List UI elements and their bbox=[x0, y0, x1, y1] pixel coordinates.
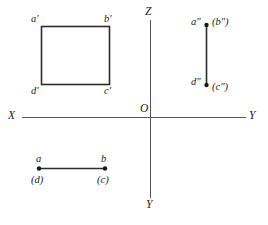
side-view-group bbox=[204, 23, 208, 87]
label-d-prime: d' bbox=[31, 86, 39, 97]
figure-canvas bbox=[0, 0, 268, 225]
projection-figure: X Y Z Y O a' b' d' c' a″ (b″) d″ (c″) a … bbox=[0, 0, 268, 225]
axis-label-y-right: Y bbox=[249, 110, 255, 122]
label-b: b bbox=[101, 154, 106, 165]
label-b-prime: b' bbox=[104, 14, 112, 25]
top-view-point-a bbox=[37, 166, 41, 170]
label-a-double-prime: a″ bbox=[191, 17, 201, 28]
axis-label-y-bottom: Y bbox=[146, 199, 152, 211]
origin-label: O bbox=[140, 103, 148, 115]
label-c-hidden: (c) bbox=[97, 175, 109, 186]
label-d-hidden: (d) bbox=[31, 175, 43, 186]
label-a: a bbox=[36, 154, 41, 165]
axis-label-x: X bbox=[8, 110, 15, 122]
top-view-point-b bbox=[103, 166, 107, 170]
side-view-point-d-double-prime bbox=[204, 83, 208, 87]
axis-group bbox=[22, 20, 246, 198]
front-view-group bbox=[42, 27, 110, 85]
axis-label-z: Z bbox=[145, 6, 151, 18]
label-d-double-prime: d″ bbox=[191, 77, 201, 88]
label-c-double-prime-hidden: (c″) bbox=[212, 82, 228, 93]
front-view-square-outline bbox=[42, 27, 110, 85]
top-view-group bbox=[37, 166, 107, 170]
label-c-prime: c' bbox=[104, 86, 111, 97]
label-b-double-prime-hidden: (b″) bbox=[212, 17, 229, 28]
label-a-prime: a' bbox=[31, 14, 39, 25]
side-view-point-a-double-prime bbox=[204, 23, 208, 27]
